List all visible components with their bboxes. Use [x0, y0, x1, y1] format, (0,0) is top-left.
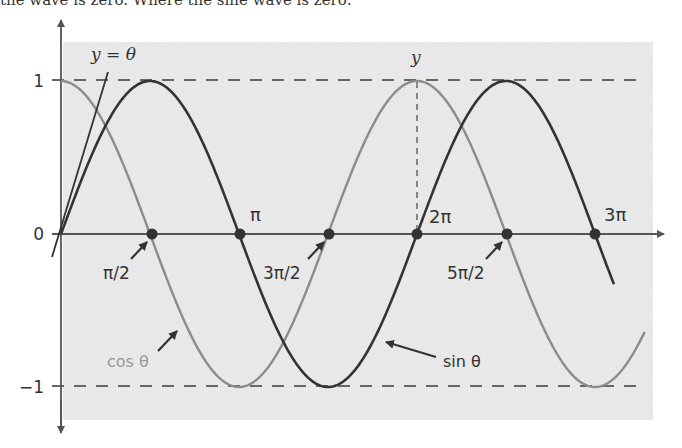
- zero-point-3pi-over-2: [324, 229, 335, 240]
- zero-point-pi-over-2: [147, 229, 158, 240]
- y-label-neg-one: −1: [19, 377, 44, 397]
- y-equals-theta-label: y = θ: [90, 44, 136, 64]
- zero-point-pi: [235, 229, 246, 240]
- y-marker-label: y: [410, 47, 421, 67]
- sin-curve-label: sin θ: [443, 352, 481, 371]
- y-label-zero: 0: [33, 224, 44, 244]
- y-label-one: 1: [33, 71, 44, 91]
- x-label-2pi: 2π: [429, 206, 451, 227]
- x-label-pi-over-2: π/2: [103, 263, 130, 283]
- x-label-5pi-over-2: 5π/2: [447, 263, 485, 283]
- x-label-pi: π: [250, 204, 261, 225]
- zero-point-2pi: [412, 229, 423, 240]
- sine-cosine-diagram: 1 0 −1 y = θ y π 2π 3π π/2 3π/2 5π/2 cos…: [0, 0, 682, 448]
- zero-point-5pi-over-2: [502, 229, 513, 240]
- zero-point-3pi: [590, 229, 601, 240]
- cos-curve-label: cos θ: [107, 352, 149, 371]
- x-label-3pi: 3π: [604, 204, 626, 225]
- x-label-3pi-over-2: 3π/2: [263, 263, 301, 283]
